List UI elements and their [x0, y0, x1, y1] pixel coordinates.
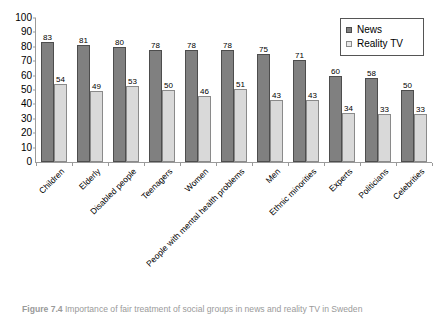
bar-reality-tv: 43: [270, 100, 283, 162]
legend-swatch-reality-tv-icon: [346, 41, 352, 47]
bar-news: 75: [257, 54, 270, 162]
y-axis-tick-mark: [33, 147, 36, 148]
x-axis-tick-mark: [324, 163, 325, 166]
x-axis-tick-mark: [396, 163, 397, 166]
bar-value-label: 50: [164, 81, 173, 90]
figure-7-4: 1009080706050403020100835481498053785078…: [0, 0, 436, 319]
bar-news: 71: [293, 60, 306, 162]
y-axis-tick-mark: [33, 133, 36, 134]
bar-value-label: 78: [151, 41, 160, 50]
x-axis-line: [35, 162, 432, 163]
x-axis-tick-mark: [360, 163, 361, 166]
x-axis-category-label: Experts: [328, 167, 355, 194]
bar-reality-tv: 49: [90, 91, 103, 162]
legend-swatch-news-icon: [346, 27, 352, 33]
bar-value-label: 54: [56, 75, 65, 84]
chart-legend: News Reality TV: [340, 18, 424, 56]
x-axis-tick-mark: [288, 163, 289, 166]
y-axis-tick-mark: [33, 46, 36, 47]
bar-value-label: 80: [115, 38, 124, 47]
bar-value-label: 75: [259, 45, 268, 54]
bar-reality-tv: 34: [342, 113, 355, 162]
x-axis-tick-mark: [36, 163, 37, 166]
y-axis-tick-mark: [33, 104, 36, 105]
x-axis-tick-mark: [72, 163, 73, 166]
y-axis-tick-mark: [33, 61, 36, 62]
bar-value-label: 58: [367, 69, 376, 78]
bar-value-label: 46: [200, 87, 209, 96]
bar-value-label: 83: [43, 33, 52, 42]
bar-value-label: 43: [308, 91, 317, 100]
y-axis-tick-mark: [33, 75, 36, 76]
bar-reality-tv: 54: [54, 84, 67, 162]
bar-news: 80: [113, 47, 126, 162]
bar-value-label: 34: [344, 104, 353, 113]
bar-value-label: 60: [331, 67, 340, 76]
legend-label-reality-tv: Reality TV: [357, 38, 403, 50]
bar-news: 78: [149, 50, 162, 162]
y-axis-tick-mark: [33, 18, 36, 19]
y-axis-tick-mark: [33, 32, 36, 33]
bar-value-label: 43: [272, 91, 281, 100]
x-axis-tick-mark: [144, 163, 145, 166]
bar-value-label: 33: [416, 105, 425, 114]
x-axis-category-label: Men: [264, 167, 282, 185]
bar-news: 78: [221, 50, 234, 162]
clipped-header-text: [74, 0, 314, 6]
legend-item-news: News: [346, 23, 417, 37]
x-axis-tick-mark: [180, 163, 181, 166]
x-axis-category-label: Teenagers: [140, 167, 174, 201]
y-axis-tick-label: 0: [26, 157, 36, 167]
x-axis-category-label: Politicians: [357, 167, 390, 200]
x-axis-category-label: Celebrities: [392, 167, 427, 202]
figure-caption: Figure 7.4 Importance of fair treatment …: [22, 303, 432, 315]
x-axis-tick-mark: [108, 163, 109, 166]
y-axis-tick-mark: [33, 118, 36, 119]
x-axis-tick-mark: [432, 163, 433, 166]
x-axis-tick-mark: [252, 163, 253, 166]
x-axis-category-label: Elderly: [78, 167, 103, 192]
x-axis-tick-mark: [216, 163, 217, 166]
bar-reality-tv: 53: [126, 86, 139, 162]
bar-value-label: 53: [128, 77, 137, 86]
bar-news: 60: [329, 76, 342, 162]
bar-value-label: 78: [187, 41, 196, 50]
y-axis-tick-mark: [33, 90, 36, 91]
figure-caption-text: Importance of fair treatment of social g…: [65, 304, 362, 314]
bar-news: 78: [185, 50, 198, 162]
bar-reality-tv: 50: [162, 90, 175, 162]
bar-value-label: 33: [380, 105, 389, 114]
bar-reality-tv: 43: [306, 100, 319, 162]
bar-value-label: 49: [92, 82, 101, 91]
x-axis-category-label: Women: [183, 167, 210, 194]
bar-value-label: 71: [295, 51, 304, 60]
bar-reality-tv: 33: [378, 114, 391, 162]
legend-item-reality-tv: Reality TV: [346, 37, 417, 51]
figure-caption-label: Figure 7.4: [22, 304, 63, 314]
bar-news: 50: [401, 90, 414, 162]
bar-reality-tv: 33: [414, 114, 427, 162]
legend-label-news: News: [357, 24, 382, 36]
bar-news: 83: [41, 42, 54, 162]
bar-value-label: 78: [223, 41, 232, 50]
bar-reality-tv: 51: [234, 89, 247, 162]
bar-news: 58: [365, 78, 378, 162]
bar-value-label: 51: [236, 80, 245, 89]
bar-news: 81: [77, 45, 90, 162]
bar-reality-tv: 46: [198, 96, 211, 162]
bar-value-label: 50: [403, 81, 412, 90]
bar-value-label: 81: [79, 36, 88, 45]
x-axis-category-label: Children: [38, 167, 67, 196]
